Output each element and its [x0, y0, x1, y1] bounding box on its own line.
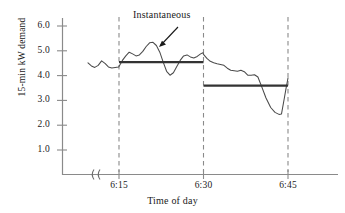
y-tick-label-6: 6.0	[24, 20, 50, 30]
y-tick-label-4: 4.0	[24, 70, 50, 80]
annotation-instantaneous-label: Instantaneous	[133, 9, 191, 20]
y-tick-label-1: 1.0	[24, 144, 50, 154]
x-tick-label-615: 6:15	[99, 180, 139, 190]
x-axis-label: Time of day	[0, 195, 345, 206]
y-axis-label: 15-min kW demand	[17, 0, 27, 117]
y-tick-label-3: 3.0	[24, 94, 50, 104]
y-tick-label-2: 2.0	[24, 119, 50, 129]
x-tick-label-630: 6:30	[184, 180, 224, 190]
chart-container: 6.0 5.0 4.0 3.0 2.0 1.0 6:15 6:30 6:45 1…	[0, 0, 345, 213]
interval-marker-lines	[119, 17, 288, 172]
y-tick-label-5: 5.0	[24, 45, 50, 55]
instantaneous-annotation-arrow	[159, 27, 178, 47]
x-tick-label-645: 6:45	[268, 180, 308, 190]
instantaneous-demand-curve	[88, 42, 288, 114]
